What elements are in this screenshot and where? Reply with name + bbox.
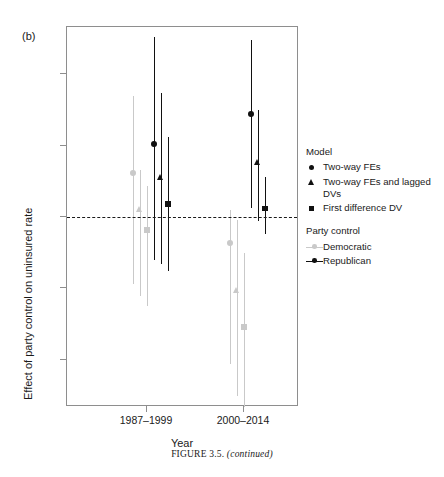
data-point-circle [227, 240, 233, 246]
data-point-triangle [254, 159, 260, 165]
zero-reference-line [67, 217, 297, 218]
legend-model-title: Model [306, 146, 442, 158]
legend-item-model: Two-way FEs [306, 161, 442, 173]
panel-label: (b) [22, 30, 35, 42]
x-tick-mark [243, 406, 244, 412]
error-bar [258, 110, 259, 221]
legend-item-party: Republican [306, 255, 442, 267]
legend-party-items: DemocraticRepublican [306, 241, 442, 268]
error-bar [230, 210, 231, 364]
legend-item-label: Democratic [323, 241, 442, 253]
error-bar [237, 220, 238, 396]
data-point-circle [248, 111, 254, 117]
legend: Model Two-way FEsTwo-way FEs and lagged … [306, 146, 442, 269]
data-point-square [144, 227, 150, 233]
x-axis-label: Year [66, 437, 298, 449]
figure-panel-b: (b) Effect of party control on uninsured… [0, 0, 444, 477]
legend-item-label: Two-way FEs [323, 161, 442, 173]
legend-item-model: Two-way FEs and lagged DVs [306, 176, 442, 201]
data-point-square [165, 201, 171, 207]
error-bar [140, 170, 141, 296]
data-point-triangle [157, 174, 163, 180]
plot-area [66, 26, 298, 406]
x-tick-mark [146, 406, 147, 412]
data-point-triangle [136, 206, 142, 212]
legend-item-label: Republican [323, 255, 442, 267]
party-democratic-swatch-icon [306, 241, 323, 253]
x-tick-label: 1987–1999 [120, 414, 173, 426]
legend-model-items: Two-way FEsTwo-way FEs and lagged DVsFir… [306, 161, 442, 214]
legend-party-title: Party control [306, 225, 442, 237]
figure-caption: FIGURE 3.5. (continued) [0, 449, 444, 459]
triangle-marker-icon [306, 176, 323, 188]
data-point-circle [130, 170, 136, 176]
error-bar [154, 37, 155, 260]
legend-item-label: First difference DV [323, 202, 442, 214]
legend-item-model: First difference DV [306, 202, 442, 214]
legend-item-label: Two-way FEs and lagged DVs [323, 176, 442, 201]
y-axis-label: Effect of party control on uninsured rat… [22, 208, 34, 400]
error-bar [251, 40, 252, 209]
legend-item-party: Democratic [306, 241, 442, 253]
legend-spacer [306, 216, 442, 225]
error-bar [147, 186, 148, 306]
square-marker-icon [306, 202, 323, 214]
x-tick-label: 2000–2014 [217, 414, 270, 426]
data-point-triangle [233, 287, 239, 293]
caption-figure-number: FIGURE 3.5. [171, 449, 224, 459]
circle-marker-icon [306, 161, 323, 173]
error-bar [133, 96, 134, 285]
data-point-square [262, 206, 268, 212]
data-point-circle [151, 141, 157, 147]
party-republican-swatch-icon [306, 255, 323, 267]
data-point-square [241, 324, 247, 330]
caption-continued: (continued) [227, 449, 273, 459]
